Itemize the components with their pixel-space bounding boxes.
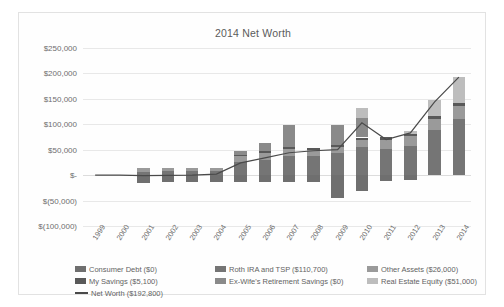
x-axis-tick: 2008: [309, 223, 325, 242]
x-axis-tick: 2013: [430, 223, 446, 242]
bar-segment: [162, 168, 175, 171]
legend-item[interactable]: My Savings ($5,100): [75, 277, 215, 286]
legend-item[interactable]: Ex-Wife's Retirement Savings ($0): [215, 277, 367, 286]
legend-row: My Savings ($5,100)Ex-Wife's Retirement …: [75, 275, 495, 287]
x-axis-tick: 2011: [382, 223, 398, 241]
bar-segment: [380, 175, 393, 181]
bar-segment: [356, 147, 369, 175]
legend-label: Net Worth ($192,800): [91, 289, 163, 298]
bar-segment: [453, 103, 466, 106]
x-axis-tick: 2009: [333, 223, 349, 242]
legend-label: My Savings ($5,100): [89, 277, 158, 286]
legend-item[interactable]: Real Estate Equity ($51,000): [367, 277, 477, 286]
bar-segment: [137, 172, 150, 176]
bar-segment: [234, 155, 247, 156]
bar-segment: [234, 162, 247, 175]
chart-container: 2014 Net Worth $250,000$200,000$150,000$…: [18, 12, 486, 295]
bar-stack[interactable]: 2002: [162, 48, 175, 226]
bar-stack[interactable]: 2012: [404, 48, 417, 226]
bar-stack[interactable]: 2006: [259, 48, 272, 226]
legend-row: Net Worth ($192,800): [75, 287, 495, 299]
bar-segment: [137, 175, 150, 182]
y-axis-tick: $50,000: [48, 145, 77, 154]
bar-segment: [404, 175, 417, 180]
bar-segment: [404, 134, 417, 136]
bar-stack[interactable]: 2014: [453, 48, 466, 226]
x-axis-tick: 2000: [115, 223, 131, 242]
chart-legend: Consumer Debt ($0)Roth IRA and TSP ($110…: [75, 263, 495, 299]
bar-stack[interactable]: 2008: [307, 48, 320, 226]
y-axis-tick: $200,000: [44, 69, 77, 78]
chart-title: 2014 Net Worth: [19, 27, 487, 39]
bar-stack[interactable]: 2004: [210, 48, 223, 226]
bar-segment: [234, 156, 247, 162]
bar-stack[interactable]: 2011: [380, 48, 393, 226]
bar-segment: [307, 175, 320, 182]
x-axis-tick: 2002: [163, 223, 179, 242]
legend-item[interactable]: Consumer Debt ($0): [75, 265, 215, 274]
legend-label: Consumer Debt ($0): [89, 265, 157, 274]
bar-segment: [380, 140, 393, 149]
bar-segment: [404, 131, 417, 134]
bar-segment: [356, 175, 369, 191]
bar-stack[interactable]: 2003: [186, 48, 199, 226]
bar-segment: [453, 119, 466, 175]
y-axis-tick: $250,000: [44, 44, 77, 53]
bar-segment: [259, 151, 272, 153]
bar-stack[interactable]: 2000: [113, 48, 126, 226]
legend-label: Real Estate Equity ($51,000): [381, 277, 477, 286]
bar-segment: [234, 175, 247, 182]
bar-segment: [186, 168, 199, 171]
bar-segment: [162, 175, 175, 182]
bar-segment: [259, 153, 272, 160]
bar-segment: [380, 149, 393, 175]
legend-item[interactable]: Net Worth ($192,800): [75, 289, 215, 298]
bar-stack[interactable]: 2010: [356, 48, 369, 226]
legend-label: Roth IRA and TSP ($110,700): [229, 265, 328, 274]
x-axis-tick: 2004: [212, 223, 228, 242]
x-axis-tick: 2003: [188, 223, 204, 242]
bar-segment: [210, 171, 223, 176]
y-axis-tick: $100,000: [44, 120, 77, 129]
bar-stack[interactable]: 2013: [428, 48, 441, 226]
y-axis-tick: $150,000: [44, 94, 77, 103]
bar-stack[interactable]: 2009: [331, 48, 344, 226]
bar-segment: [356, 138, 369, 140]
bar-segment: [210, 168, 223, 171]
bar-segment: [331, 175, 344, 198]
legend-label: Other Assets ($26,000): [381, 265, 458, 274]
bar-segment: [283, 175, 296, 182]
bar-segment: [162, 171, 175, 175]
bar-segment: [428, 116, 441, 119]
bar-segment: [453, 106, 466, 119]
legend-swatch-icon: [75, 266, 86, 272]
bar-segment: [331, 125, 344, 145]
bar-stack[interactable]: 1999: [89, 48, 102, 226]
bar-stack[interactable]: 2005: [234, 48, 247, 226]
legend-item[interactable]: Other Assets ($26,000): [367, 265, 458, 274]
x-axis-tick: 2001: [139, 223, 155, 242]
bar-segment: [331, 153, 344, 175]
bar-segment: [356, 140, 369, 148]
legend-item[interactable]: Roth IRA and TSP ($110,700): [215, 265, 367, 274]
bar-segment: [356, 118, 369, 137]
bar-segment: [331, 147, 344, 154]
bar-stack[interactable]: 2007: [283, 48, 296, 226]
bar-stack[interactable]: 2001: [137, 48, 150, 226]
bar-segment: [307, 156, 320, 175]
bar-segment: [380, 137, 393, 139]
bar-segment: [307, 148, 320, 150]
x-axis-tick: 2005: [236, 223, 252, 242]
bar-segment: [331, 145, 344, 147]
x-axis-tick: 2012: [406, 223, 422, 242]
bar-segment: [428, 130, 441, 175]
bar-segment: [356, 108, 369, 118]
bar-segment: [259, 160, 272, 175]
bar-segment: [186, 175, 199, 182]
x-axis-tick: 2007: [285, 223, 301, 242]
bar-segment: [453, 77, 466, 103]
bar-segment: [283, 149, 296, 156]
bar-segment: [428, 100, 441, 116]
legend-swatch-icon: [215, 278, 226, 284]
legend-row: Consumer Debt ($0)Roth IRA and TSP ($110…: [75, 263, 495, 275]
